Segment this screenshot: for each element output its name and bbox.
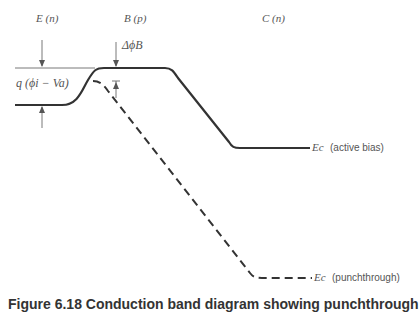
- arrow-head-up-icon: [113, 82, 119, 89]
- punchthrough-label: (punchthrough): [332, 272, 400, 283]
- figure-caption: Figure 6.18 Conduction band diagram show…: [8, 296, 419, 312]
- active-bias-symbol: Ec: [312, 141, 324, 153]
- barrier-height-label: q (ϕi − Va): [16, 76, 69, 91]
- punchthrough-curve: [93, 81, 312, 278]
- arrow-head-down-icon: [113, 60, 119, 67]
- base-region-label: B (p): [124, 12, 146, 24]
- collector-region-label: C (n): [262, 12, 285, 24]
- active-bias-label: (active bias): [330, 142, 384, 153]
- arrow-head-up-icon: [39, 106, 45, 113]
- emitter-region-label: E (n): [36, 12, 58, 24]
- arrow-head-down-icon: [39, 60, 45, 67]
- punchthrough-symbol: Ec: [314, 271, 326, 283]
- barrier-lowering-label: ΔϕB: [122, 38, 143, 53]
